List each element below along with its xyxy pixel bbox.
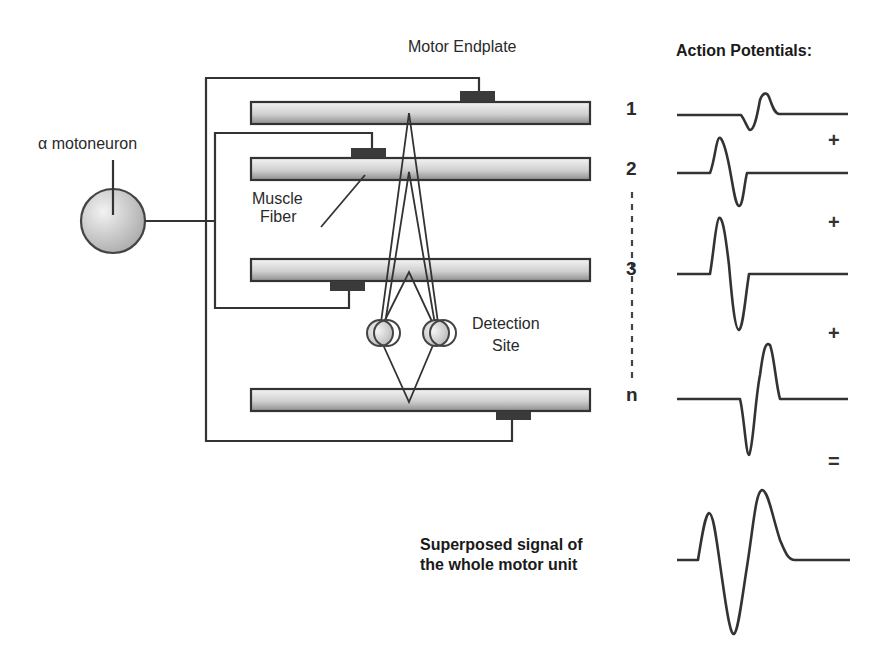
muscle-fiber-label-line1: Muscle	[252, 190, 303, 208]
detection-site-line1: Detection	[472, 313, 540, 335]
endplate-icon	[460, 91, 495, 102]
electrode-icon	[367, 320, 393, 346]
muscle-fiber-label-line2: Fiber	[252, 208, 303, 226]
superposed-line2: the whole motor unit	[420, 555, 583, 575]
superposed-line1: Superposed signal of	[420, 535, 583, 555]
muscle-fiber-n	[251, 389, 590, 411]
fiber-number-3: 3	[626, 258, 637, 280]
plus-operator: +	[828, 322, 840, 345]
action-potential-n	[677, 344, 848, 455]
action-potentials-title: Action Potentials:	[676, 42, 812, 60]
motor-endplate-label: Motor Endplate	[408, 38, 517, 56]
action-potential-3	[677, 218, 848, 330]
muscle-fiber-2	[251, 158, 590, 180]
muscle-fiber-1	[251, 102, 590, 124]
superposed-signal-label: Superposed signal of the whole motor uni…	[420, 535, 583, 575]
fiber-number-2: 2	[626, 158, 637, 180]
alpha-motoneuron-label: α motoneuron	[38, 135, 137, 153]
detection-site-label: Detection Site	[472, 313, 540, 357]
muscle-fiber-3	[251, 259, 590, 281]
plus-operator: +	[828, 211, 840, 234]
endplate-icon	[496, 411, 531, 420]
electrode-icon	[423, 320, 449, 346]
action-potential-1	[677, 94, 848, 130]
endplate-icon	[351, 148, 386, 158]
superposed-signal	[677, 490, 850, 634]
action-potential-2	[677, 138, 848, 206]
plus-operator: +	[828, 129, 840, 152]
equals-operator: =	[828, 450, 840, 473]
detection-site-line2: Site	[472, 335, 540, 357]
fiber-number-1: 1	[626, 98, 637, 120]
fiber-number-n: n	[626, 384, 638, 406]
muscle-fiber-label: Muscle Fiber	[252, 190, 303, 226]
endplate-icon	[330, 281, 365, 291]
